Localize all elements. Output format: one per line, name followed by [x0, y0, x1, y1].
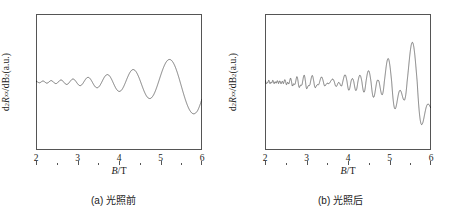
- panel-a-caption: (a) 光照前: [0, 192, 227, 207]
- y-label-sub: xx: [230, 91, 236, 97]
- x-label-unit: /T: [347, 165, 356, 176]
- y-label-sup1: 2: [3, 103, 10, 106]
- panel-a-data-curve: [36, 14, 202, 150]
- panel-b: d2Rxx/dB2(a.u.) 23456 B/T (b) 光照后: [227, 0, 454, 219]
- panel-b-y-axis-label: d2Rxx/dB2(a.u.): [225, 14, 241, 150]
- panel-b-plot-area: [265, 14, 431, 150]
- y-label-var: R: [228, 97, 238, 103]
- y-label-sup2: 2: [3, 74, 10, 77]
- y-label-sup1: 2: [230, 103, 237, 106]
- y-label-units: (a.u.): [1, 53, 11, 74]
- x-label-unit: /T: [118, 165, 127, 176]
- y-label-mid: /dB: [1, 77, 11, 91]
- y-label-var: R: [1, 97, 11, 103]
- panel-b-caption: (b) 光照后: [227, 192, 454, 207]
- panel-a-plot-area: [36, 14, 202, 150]
- y-label-d: d: [228, 106, 238, 111]
- y-label-sub: xx: [3, 91, 9, 97]
- figure-sdh-oscillations: d2Rxx/dB2(a.u.) 23456 B/T (a) 光照前 d2Rxx/…: [0, 0, 454, 219]
- panel-b-data-curve: [265, 14, 431, 150]
- y-label-units: (a.u.): [228, 53, 238, 74]
- panel-a-y-axis-label: d2Rxx/dB2(a.u.): [0, 14, 14, 150]
- panel-b-x-tick-labels: 23456: [265, 152, 431, 165]
- panel-a-x-tick-labels: 23456: [36, 152, 202, 165]
- panel-a-x-axis-label: B/T: [36, 165, 202, 176]
- y-label-d: d: [1, 106, 11, 111]
- panel-b-x-axis-label: B/T: [265, 165, 431, 176]
- panel-a: d2Rxx/dB2(a.u.) 23456 B/T (a) 光照前: [0, 0, 227, 219]
- y-label-mid: /dB: [228, 77, 238, 91]
- y-label-sup2: 2: [230, 74, 237, 77]
